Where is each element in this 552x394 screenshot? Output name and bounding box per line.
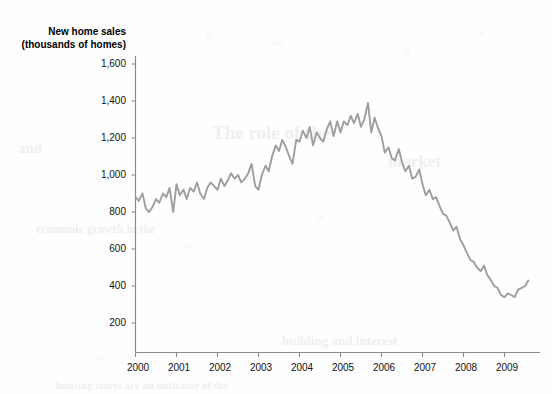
axis-lines: [136, 56, 541, 353]
chart-plot: [0, 0, 552, 394]
chart-page: The role of the market and economic grow…: [0, 0, 552, 394]
new-home-sales-line: [136, 103, 529, 297]
x-tick-marks: [136, 353, 505, 358]
